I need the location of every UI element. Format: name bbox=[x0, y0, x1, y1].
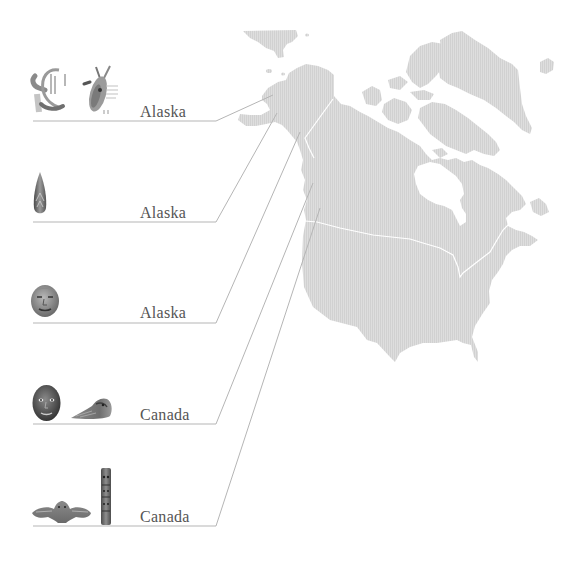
entry-label-1: Alaska bbox=[140, 104, 186, 120]
entry-label-4: Canada bbox=[140, 407, 190, 423]
entry-label-5: Canada bbox=[140, 509, 190, 525]
entry-label-2: Alaska bbox=[140, 205, 186, 221]
dark-mask-icon[interactable] bbox=[32, 384, 61, 422]
raven-rattle-icon[interactable] bbox=[70, 394, 113, 421]
carved-hook-icon[interactable] bbox=[29, 64, 69, 116]
connector-line-3 bbox=[33, 132, 300, 323]
entry-label-3: Alaska bbox=[140, 305, 186, 321]
connector-line-5 bbox=[33, 208, 320, 526]
carved-mask-icon[interactable] bbox=[30, 284, 60, 318]
totem-pole-icon[interactable] bbox=[100, 467, 112, 526]
teardrop-pendant-icon[interactable] bbox=[33, 171, 47, 217]
bird-figure-icon[interactable] bbox=[80, 64, 120, 116]
bird-spread-wings-icon[interactable] bbox=[32, 497, 92, 525]
